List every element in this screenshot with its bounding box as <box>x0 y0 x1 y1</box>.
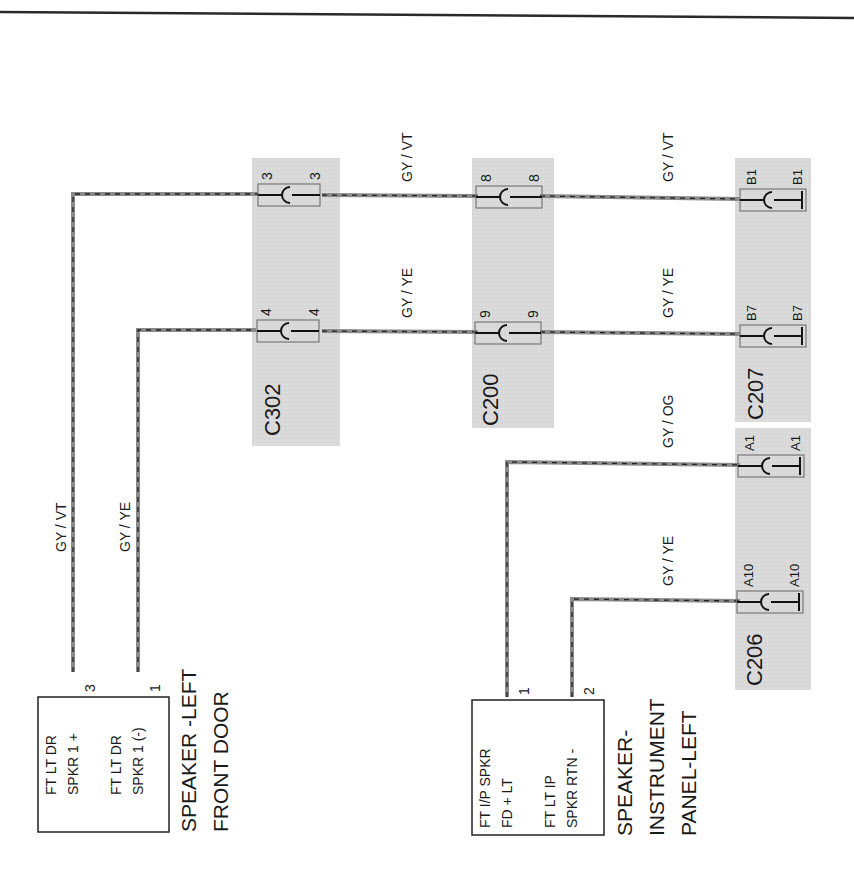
ip-speaker-pin-b-sub: SPKR RTN - <box>564 749 580 828</box>
door-speaker-pin-a-num: 3 <box>82 684 98 692</box>
door-speaker-pin-b-label: FT LT DR <box>108 735 124 795</box>
connector-c200-name: C200 <box>478 373 503 426</box>
connector-c206-name: C206 <box>742 633 767 686</box>
door-speaker-pin-b-num: 1 <box>147 684 163 692</box>
wire-gy-ye-ip-minus <box>572 599 740 697</box>
connector-c302-name: C302 <box>260 383 285 436</box>
ip-speaker-title-2: INSTRUMENT <box>645 698 668 836</box>
c207-pin-in-label: B7 <box>744 305 759 321</box>
c207-pin-in-label: B1 <box>744 169 759 185</box>
ip-speaker-pin-a-num: 1 <box>516 687 532 695</box>
c200-pin-out-label: 8 <box>526 174 542 182</box>
wire-label-ip-a10: GY / YE <box>660 536 676 586</box>
c207-pin-out-label: B1 <box>790 169 805 185</box>
c200-pin-in-label: 9 <box>477 310 493 318</box>
ip-speaker-title-1: SPEAKER- <box>613 730 636 836</box>
ip-speaker-pin-a-sub: FD + LT <box>499 778 515 828</box>
wire-gy-vt-door-plus <box>73 194 258 672</box>
wire-gy-ye-door-minus <box>138 330 256 672</box>
wire-label-top-1: GY / VT <box>399 132 415 182</box>
c200-pin-out-label: 9 <box>525 310 541 318</box>
c206-pin-out-label: A10 <box>787 564 802 587</box>
c207-pin-out-label: B7 <box>790 305 805 321</box>
c302-pin-out-label: 4 <box>306 308 322 316</box>
wire-label-mid-1: GY / YE <box>399 268 415 318</box>
c206-pin-out-label: A1 <box>788 435 803 451</box>
ip-speaker-pin-a-label: FT I/P SPKR <box>477 748 493 828</box>
c206-pin-in-label: A10 <box>741 564 756 587</box>
door-speaker-title-1: SPEAKER -LEFT <box>177 668 200 832</box>
wire-gy-og-ip-plus <box>507 462 740 697</box>
ip-speaker-pin-b-label: FT LT IP <box>542 775 558 828</box>
top-border-line <box>0 12 854 18</box>
door-speaker-pin-a-sub: SPKR 1 + <box>65 733 81 795</box>
ip-speaker-pin-b-num: 2 <box>581 687 597 695</box>
wire-label-mid-2: GY / YE <box>660 268 676 318</box>
c302-pin-in-label: 3 <box>259 172 275 180</box>
wiring-diagram: 3 3 4 4 8 8 9 9 B1 B1 B7 B7 A1 A1 A10 A1… <box>0 0 854 883</box>
wire-label-door-plus: GY / VT <box>53 502 69 552</box>
door-speaker-pin-a-label: FT LT DR <box>43 735 59 795</box>
connector-c207-name: C207 <box>743 367 768 420</box>
door-speaker-pin-b-sub: SPKR 1 (-) <box>130 727 146 795</box>
c206-pin-in-label: A1 <box>742 435 757 451</box>
wire-label-ip-a1: GY / OG <box>660 395 676 448</box>
c302-pin-in-label: 4 <box>258 308 274 316</box>
c302-pin-out-label: 3 <box>307 172 323 180</box>
door-speaker-title-2: FRONT DOOR <box>209 691 232 832</box>
wire-label-door-minus: GY / YE <box>117 502 133 552</box>
c200-pin-in-label: 8 <box>478 174 494 182</box>
ip-speaker-title-3: PANEL-LEFT <box>677 710 700 836</box>
wire-label-top-2: GY / VT <box>660 132 676 182</box>
